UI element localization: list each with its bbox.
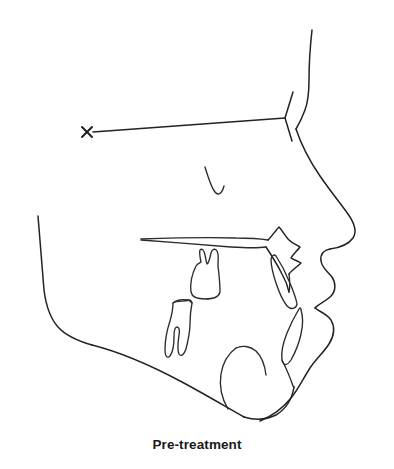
symphysis-inner-path [236, 346, 266, 375]
columella-upper-lip-path [315, 249, 335, 308]
hard-palate-upper-path [141, 238, 268, 240]
upper-molar-outline-path [191, 249, 220, 299]
nasion-lower-limb-path [285, 118, 292, 141]
cephalometric-figure: Pre-treatment [0, 0, 394, 469]
hard-palate-lower-path [141, 240, 266, 248]
mandibular-lower-border-path [92, 345, 244, 417]
lower-lip-soft-chin-path [260, 308, 333, 421]
cephalometric-tracing-svg [0, 0, 394, 469]
maxillary-posterior-contour-path [266, 247, 289, 292]
upper-incisor-outline-path [271, 255, 297, 308]
sella-nasion-line-path [93, 118, 285, 132]
cranial-frontal-profile-path [296, 30, 312, 129]
mandibular-alveolar-posterior-path [220, 348, 236, 409]
maxilla-anterior-path [268, 227, 301, 274]
lower-incisor-outline-path [282, 308, 303, 365]
sella-turcica-path [205, 167, 224, 194]
figure-caption: Pre-treatment [0, 437, 394, 453]
sella-point-x-icon [82, 127, 92, 137]
nasal-dorsum-path [296, 129, 355, 249]
mandibular-ramus-path [38, 216, 92, 345]
nasion-upper-limb-path [285, 92, 293, 118]
lower-molar-outline-path [165, 300, 192, 358]
